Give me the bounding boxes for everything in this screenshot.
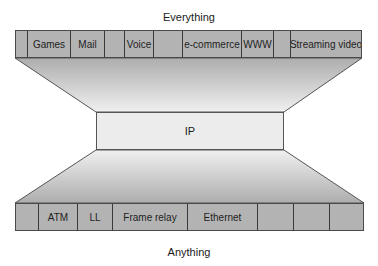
app-cell-empty [16,31,28,57]
app-cell-empty [274,31,291,57]
net-cell-ll: LL [78,204,113,230]
app-cell-voice: Voice [125,31,154,57]
top-funnel [15,58,362,112]
bottom-funnel [15,150,364,203]
app-cell-ecommerce: e-commerce [183,31,242,57]
app-cell-streaming-video: Streaming video [291,31,361,57]
app-cell-empty [154,31,183,57]
ip-layer-box: IP [96,112,284,150]
app-cell-games: Games [28,31,71,57]
net-cell-empty [294,204,330,230]
net-cell-atm: ATM [39,204,78,230]
net-cell-empty [258,204,294,230]
app-cell-www: WWW [242,31,274,57]
networks-bar: ATM LL Frame relay Ethernet [15,203,364,231]
applications-bar: Games Mail Voice e-commerce WWW Streamin… [15,30,362,58]
app-cell-mail: Mail [71,31,105,57]
net-cell-ethernet: Ethernet [188,204,258,230]
net-cell-frame-relay: Frame relay [113,204,188,230]
net-cell-empty [330,204,363,230]
bottom-caption: Anything [0,246,378,258]
app-cell-empty [105,31,125,57]
net-cell-empty [16,204,39,230]
